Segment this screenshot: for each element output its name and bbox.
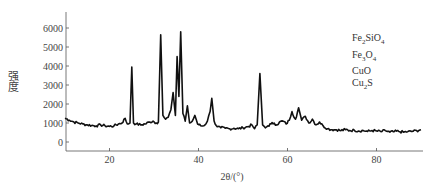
y-tick-label: 2000 xyxy=(43,99,63,110)
legend-item: Cu2S xyxy=(352,77,385,94)
y-axis-title: 强度 xyxy=(6,70,18,92)
x-tick-labels: 20406080 xyxy=(105,148,382,165)
y-tick-label: 1000 xyxy=(43,118,63,129)
y-tick-label: 4000 xyxy=(43,61,63,72)
y-tick-label: 5000 xyxy=(43,42,63,53)
legend-item: Fe3O4 xyxy=(352,49,385,66)
y-tick-labels: 0100020003000400050006000 xyxy=(43,23,69,148)
y-tick-label: 3000 xyxy=(43,80,63,91)
x-tick-label: 40 xyxy=(194,154,204,165)
x-axis-title: 2θ/(°) xyxy=(220,171,243,183)
y-tick-label: 6000 xyxy=(43,23,63,34)
legend-item: Fe2SiO4 xyxy=(352,32,385,49)
xrd-chart: 0100020003000400050006000 20406080 2θ/(°… xyxy=(0,0,444,193)
x-tick-label: 60 xyxy=(283,154,293,165)
legend: Fe2SiO4Fe3O4CuOCu2S xyxy=(352,32,385,93)
legend-item: CuO xyxy=(352,65,385,77)
x-tick-label: 80 xyxy=(372,154,382,165)
y-tick-label: 0 xyxy=(58,137,63,148)
x-tick-label: 20 xyxy=(105,154,115,165)
